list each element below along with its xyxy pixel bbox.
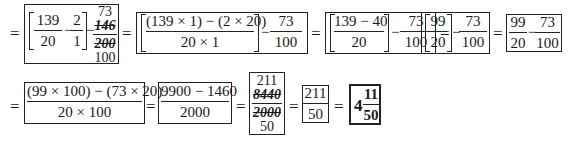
fraction-cross-multiply: (99 × 100) − (73 × 20) 20 × 100 (27, 84, 142, 120)
fraction-99-20: 99 20 (509, 15, 527, 51)
right-bracket (254, 14, 259, 52)
fraction-73-100: 73 100 (535, 15, 560, 51)
equals-sign: = (122, 24, 132, 44)
fraction-139-40-over-20: 139 − 40 20 (334, 14, 384, 50)
right-bracket (384, 14, 389, 52)
fraction-139-20: 139 20 (34, 13, 62, 49)
answer-whole: 4 (354, 96, 363, 116)
equals-sign: = (289, 97, 299, 117)
fraction-99-20: 99 20 (429, 14, 447, 50)
cancelled-fraction-8440-2000: 211 8440 2000 50 (250, 74, 284, 134)
equals-sign: = (146, 97, 156, 117)
minus-sign: − (261, 24, 269, 41)
equals-sign: = (334, 97, 344, 117)
minus-sign: − (391, 24, 399, 41)
equals-sign: = (493, 24, 503, 44)
fraction-73-100: 73 100 (459, 14, 487, 50)
equals-sign: = (236, 97, 246, 117)
equals-sign: = (311, 24, 321, 44)
answer-fraction-11-50: 11 50 (363, 87, 379, 123)
fraction-9900-1460: 9900 − 1460 2000 (161, 84, 229, 120)
fraction-211-50: 211 50 (303, 86, 328, 122)
cancelled-fraction-146-200: 73 146 200 100 (93, 5, 117, 65)
fraction-73-100: 73 100 (270, 14, 302, 50)
equals-sign: = (10, 24, 20, 44)
equals-sign: = (10, 97, 20, 117)
fraction-expanded: (139 × 1) − (2 × 20) 20 × 1 (146, 14, 254, 50)
